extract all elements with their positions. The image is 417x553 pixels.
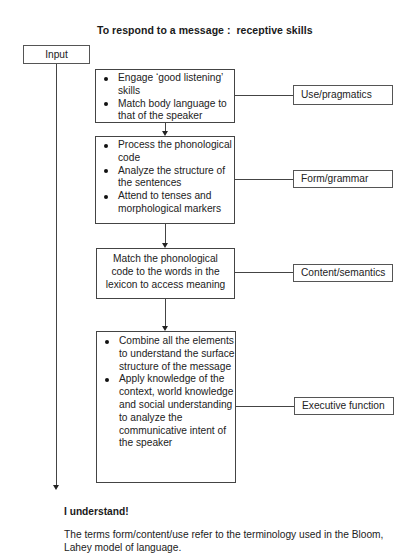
- category-executive-function: Executive function: [294, 397, 394, 415]
- bullet-item: Attend to tenses and morphological marke…: [96, 190, 234, 216]
- connector-line: [165, 299, 166, 326]
- connector-line: [235, 272, 293, 273]
- footnote: The terms form/content/use refer to the …: [64, 528, 404, 553]
- outcome-heading: I understand!: [64, 506, 129, 517]
- process-box-listening: Engage ‘good listening’ skills Match bod…: [95, 69, 235, 123]
- category-use-pragmatics: Use/pragmatics: [293, 85, 393, 105]
- diagram-title: To respond to a message : receptive skil…: [97, 24, 313, 36]
- connector-line: [235, 179, 293, 180]
- process-text: Match the phonological code to the words…: [106, 253, 225, 290]
- bullet-item: Apply knowledge of the context, world kn…: [97, 373, 235, 450]
- process-box-grammar: Process the phonological code Analyze th…: [95, 136, 235, 224]
- process-box-semantics: Match the phonological code to the words…: [96, 248, 235, 299]
- bullet-item: Process the phonological code: [96, 139, 234, 165]
- connector-line: [236, 406, 294, 407]
- category-label: Form/grammar: [301, 173, 368, 185]
- category-label: Content/semantics: [301, 267, 385, 279]
- bullet-item: Combine all the elements to understand t…: [97, 335, 235, 373]
- arrow-down-icon: [53, 485, 59, 490]
- category-content-semantics: Content/semantics: [293, 264, 393, 282]
- bullet-item: Match body language to that of the speak…: [96, 98, 234, 124]
- bullet-item: Analyze the structure of the sentences: [96, 165, 234, 191]
- input-label: Input: [45, 49, 68, 61]
- input-box: Input: [23, 45, 90, 64]
- connector-line: [235, 95, 293, 96]
- category-label: Executive function: [302, 400, 385, 412]
- input-flow-line: [56, 64, 57, 486]
- connector-line: [165, 224, 166, 243]
- process-box-executive: Combine all the elements to understand t…: [96, 331, 236, 483]
- category-form-grammar: Form/grammar: [293, 170, 393, 188]
- bullet-item: Engage ‘good listening’ skills: [96, 72, 234, 98]
- category-label: Use/pragmatics: [301, 89, 372, 101]
